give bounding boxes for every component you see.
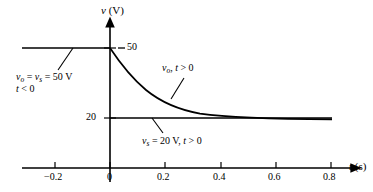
- x-axis-unit: (s): [355, 160, 367, 172]
- left-t-rest: < 0: [19, 83, 35, 94]
- left-annotation: vo = vs = 50 V t < 0: [16, 71, 72, 94]
- bottom-t-rest: > 0: [186, 135, 202, 146]
- left-annotation-line2: t < 0: [16, 83, 72, 95]
- x-tick-marks: [55, 162, 331, 168]
- leader-bottom-annotation: [152, 118, 163, 133]
- left-eq1: =: [24, 71, 35, 82]
- y-axis-title: v (V): [101, 4, 124, 17]
- y-tick-label-50: 50: [127, 41, 137, 53]
- leader-left-annotation: [58, 48, 73, 70]
- series-vo-after: [110, 48, 332, 119]
- curve-annotation: vo, t > 0: [162, 62, 194, 74]
- y-axis-unit: (V): [109, 4, 124, 16]
- y-tick-label-20: 20: [86, 111, 96, 123]
- left-vo-sub: o: [20, 75, 24, 84]
- x-tick-label-5: 0.8: [323, 171, 336, 183]
- bottom-annotation: vs = 20 V, t > 0: [142, 135, 202, 147]
- x-tick-label-0: −0.2: [44, 171, 62, 183]
- left-annotation-line1: vo = vs = 50 V: [16, 71, 72, 83]
- leader-curve-annotation: [171, 78, 184, 99]
- chart-canvas: [0, 0, 373, 192]
- x-tick-label-1: 0: [107, 171, 112, 183]
- curve-t-rest: > 0: [178, 62, 194, 73]
- x-tick-label-3: 0.4: [213, 171, 226, 183]
- chart-figure: v (V) t (s) 50 20 −0.2 0 0.2 0.4 0.6 0.8…: [0, 0, 373, 192]
- x-axis-title: t (s): [349, 160, 366, 173]
- curve-vo-sub: o: [166, 66, 170, 75]
- left-eq2: = 50 V: [42, 71, 72, 82]
- bottom-vs-sub: s: [146, 139, 149, 148]
- x-tick-label-2: 0.2: [157, 171, 170, 183]
- left-vs-sub: s: [39, 75, 42, 84]
- x-tick-label-4: 0.6: [268, 171, 281, 183]
- bottom-rest: = 20 V,: [149, 135, 183, 146]
